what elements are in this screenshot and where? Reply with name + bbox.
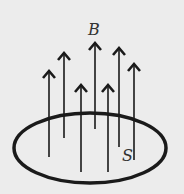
surface-ellipse [14, 113, 166, 183]
field-label-b: B [88, 20, 100, 39]
flux-diagram: B S [0, 0, 184, 194]
surface-label-s: S [122, 146, 133, 165]
